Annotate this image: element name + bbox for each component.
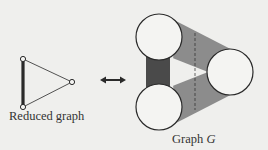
- graph-g-label: Graph G: [172, 132, 215, 147]
- graph-g-label-prefix: Graph: [172, 132, 206, 146]
- reduced-vertex-right: [69, 79, 74, 84]
- graph-g: [136, 14, 253, 130]
- cluster-right: [207, 49, 253, 95]
- cluster-top: [136, 14, 182, 60]
- reduced-graph-label: Reduced graph: [9, 109, 84, 124]
- reduced-edge-bottom-right: [23, 82, 72, 107]
- graph-g-label-var: G: [206, 132, 215, 146]
- cluster-bottom: [136, 84, 182, 130]
- reduced-edge-top-right: [23, 59, 72, 82]
- reduced-graph: [20, 56, 74, 109]
- diagram-canvas: [0, 0, 268, 150]
- reduced-vertex-top: [20, 56, 25, 61]
- double-headed-arrow-icon: [100, 77, 126, 84]
